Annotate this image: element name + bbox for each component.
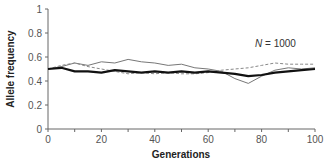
x-axis: 020406080100 bbox=[45, 129, 324, 145]
series-layer bbox=[48, 59, 315, 83]
y-tick-label: 0.4 bbox=[28, 76, 42, 87]
y-axis-title: Allele frequency bbox=[5, 30, 16, 108]
x-tick-label: 80 bbox=[256, 134, 268, 145]
x-tick-label: 20 bbox=[96, 134, 108, 145]
y-tick-label: 0.2 bbox=[28, 100, 42, 111]
y-tick-label: 0.8 bbox=[28, 28, 42, 39]
x-tick-label: 40 bbox=[149, 134, 161, 145]
y-tick-label: 0.6 bbox=[28, 52, 42, 63]
y-tick-label: 1 bbox=[36, 4, 42, 15]
population-size-annotation: N = 1000 bbox=[255, 38, 296, 49]
allele-frequency-chart: 00.20.40.60.81 020406080100 Allele frequ… bbox=[0, 0, 336, 163]
x-tick-label: 60 bbox=[203, 134, 215, 145]
x-axis-title: Generations bbox=[152, 149, 211, 160]
y-axis: 00.20.40.60.81 bbox=[28, 4, 48, 135]
y-tick-label: 0 bbox=[36, 124, 42, 135]
x-tick-label: 0 bbox=[45, 134, 51, 145]
series-line-1 bbox=[48, 68, 315, 76]
x-tick-label: 100 bbox=[307, 134, 324, 145]
